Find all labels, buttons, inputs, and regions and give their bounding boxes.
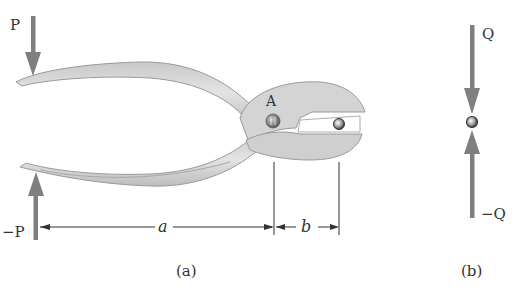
caption-a: (a) [176, 262, 197, 280]
dimension-a-label: a [158, 217, 168, 236]
lower-jaw [246, 132, 362, 160]
dimension-b-label: b [301, 217, 311, 236]
ball [467, 117, 478, 128]
force-neg-p-label: −P [2, 223, 25, 241]
lower-handle [20, 132, 268, 186]
force-q-label: Q [482, 25, 494, 43]
force-neg-q-arrow [464, 130, 480, 218]
panel-b: Q −Q (b) [461, 25, 506, 280]
caption-b: (b) [461, 262, 482, 280]
force-p-label: P [10, 16, 20, 34]
gripped-ball [334, 119, 345, 130]
pivot-label: A [265, 93, 277, 109]
force-neg-q-label: −Q [481, 205, 506, 223]
dimension-a [40, 224, 274, 230]
force-neg-p-arrow [28, 172, 44, 240]
force-p-arrow [25, 16, 41, 76]
pliers-diagram: A P −P a [0, 0, 513, 298]
force-q-arrow [464, 25, 480, 114]
pivot-pin-a [266, 114, 280, 128]
upper-handle [16, 62, 262, 124]
panel-a: A P −P a [2, 16, 365, 280]
